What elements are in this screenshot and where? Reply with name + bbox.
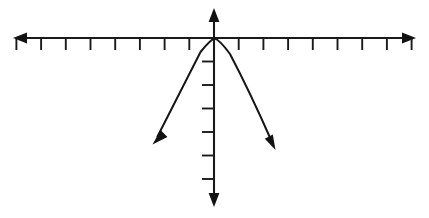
x-axis-right-arrow-icon bbox=[402, 33, 416, 44]
x-axis-ticks-right bbox=[239, 38, 412, 50]
parabola-right-branch-arrow-icon bbox=[265, 135, 276, 150]
coordinate-graph-svg bbox=[0, 0, 429, 218]
graph-figure bbox=[0, 0, 429, 218]
x-axis-left-arrow-icon bbox=[13, 33, 27, 44]
y-axis-bottom-arrow-icon bbox=[209, 193, 220, 207]
y-axis-top-arrow-icon bbox=[209, 8, 220, 22]
y-axis-ticks-below bbox=[202, 62, 214, 180]
parabola-left-branch-arrow-icon bbox=[153, 130, 168, 144]
x-axis-ticks-left bbox=[16, 38, 189, 50]
